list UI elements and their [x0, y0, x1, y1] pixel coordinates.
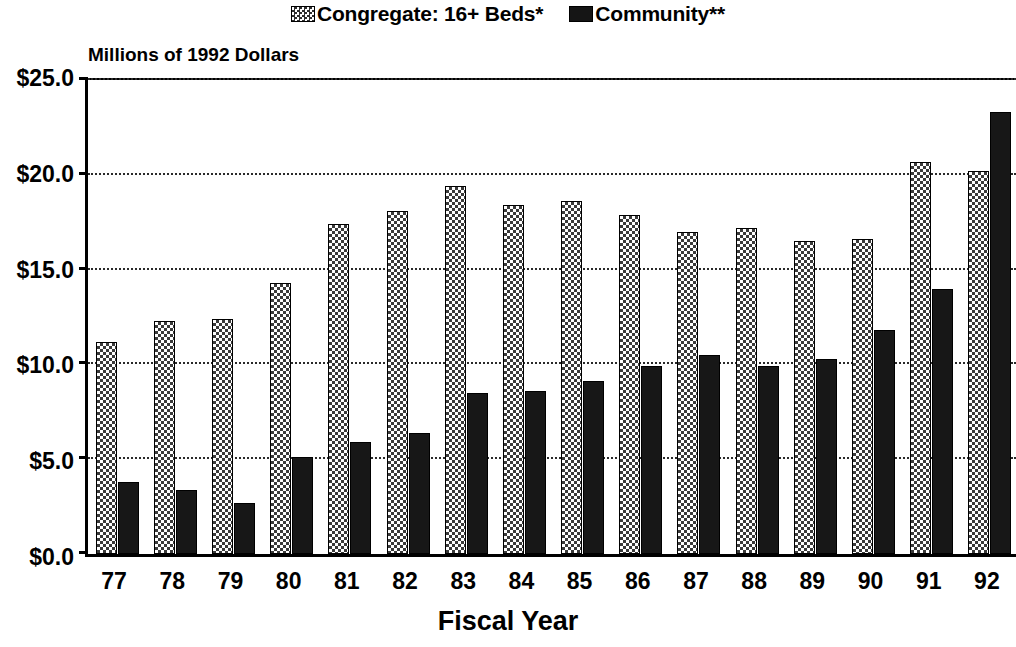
bar-group: [961, 80, 1016, 554]
bar-congregate: [96, 342, 117, 554]
bar-group: [786, 80, 844, 554]
bars-layer: [88, 80, 1016, 554]
bar-congregate: [387, 211, 408, 554]
bar-congregate: [852, 239, 873, 554]
x-axis-tick-label: 85: [567, 568, 593, 595]
y-axis-title: Millions of 1992 Dollars: [88, 44, 299, 66]
bar-community: [292, 457, 313, 554]
bar-community: [932, 289, 953, 554]
y-axis-tick-mark: [79, 361, 88, 364]
bar-community: [176, 490, 197, 554]
bar-community: [699, 355, 720, 554]
bar-group: [263, 80, 321, 554]
y-axis-tick-mark: [79, 267, 88, 270]
y-axis-tick-label: $25.0: [0, 65, 74, 92]
y-axis-tick-label: $5.0: [0, 448, 74, 475]
bar-congregate: [270, 283, 291, 554]
y-axis-tick-label: $10.0: [0, 352, 74, 379]
y-axis-tick-mark: [79, 551, 88, 554]
bar-group: [146, 80, 204, 554]
x-axis-tick-label: 86: [625, 568, 651, 595]
bar-group: [844, 80, 902, 554]
legend-item-congregate: Congregate: 16+ Beds*: [291, 3, 543, 24]
bar-community: [641, 366, 662, 554]
bar-group: [437, 80, 495, 554]
bar-congregate: [968, 171, 989, 554]
x-axis-tick-label: 80: [276, 568, 302, 595]
bar-group: [204, 80, 262, 554]
bar-congregate: [736, 228, 757, 554]
bar-congregate: [503, 205, 524, 554]
solid-swatch-icon: [569, 6, 593, 22]
legend-item-community: Community**: [569, 3, 725, 24]
x-axis-tick-label: 79: [218, 568, 244, 595]
bar-community: [525, 391, 546, 554]
y-axis-tick-mark: [79, 456, 88, 459]
x-axis-tick-label: 89: [800, 568, 826, 595]
y-axis-tick-label: $0.0: [0, 544, 74, 571]
bar-community: [990, 112, 1011, 554]
x-axis-tick-label: 82: [392, 568, 418, 595]
bar-group: [88, 80, 146, 554]
bar-congregate: [212, 319, 233, 554]
bar-congregate: [910, 162, 931, 554]
bar-community: [234, 503, 255, 554]
x-axis-tick-label: 84: [509, 568, 535, 595]
legend-label-congregate: Congregate: 16+ Beds*: [317, 3, 543, 24]
bar-congregate: [328, 224, 349, 554]
bar-congregate: [794, 241, 815, 554]
x-axis-tick-label: 92: [974, 568, 1000, 595]
bar-community: [816, 359, 837, 554]
x-axis-tick-label: 90: [858, 568, 884, 595]
bar-community: [583, 381, 604, 554]
plot-area: [85, 78, 1016, 557]
bar-group: [554, 80, 612, 554]
x-axis-tick-label: 87: [683, 568, 709, 595]
bar-group: [728, 80, 786, 554]
bar-community: [118, 482, 139, 554]
bar-group: [321, 80, 379, 554]
bar-community: [467, 393, 488, 554]
bar-congregate: [561, 201, 582, 554]
x-axis-tick-label: 77: [101, 568, 127, 595]
bar-group: [612, 80, 670, 554]
x-axis-tick-label: 81: [334, 568, 360, 595]
bar-chart: Congregate: 16+ Beds* Community** Millio…: [0, 0, 1016, 647]
checkered-swatch-icon: [291, 6, 315, 22]
bar-group: [379, 80, 437, 554]
x-axis-tick-label: 88: [741, 568, 767, 595]
x-axis-tick-label: 78: [159, 568, 185, 595]
bar-community: [874, 330, 895, 554]
y-axis-tick-label: $15.0: [0, 256, 74, 283]
bar-congregate: [154, 321, 175, 554]
bar-group: [670, 80, 728, 554]
x-axis-tick-label: 91: [916, 568, 942, 595]
bar-community: [409, 433, 430, 554]
bar-community: [350, 442, 371, 554]
x-axis-tick-label: 83: [450, 568, 476, 595]
legend-label-community: Community**: [595, 3, 725, 24]
x-axis-tick-labels: 77787980818283848586878889909192: [85, 560, 1016, 590]
bar-group: [495, 80, 553, 554]
chart-legend: Congregate: 16+ Beds* Community**: [0, 3, 1016, 24]
bar-community: [758, 366, 779, 554]
bar-congregate: [445, 186, 466, 554]
y-axis-tick-mark: [79, 77, 88, 80]
bar-congregate: [619, 215, 640, 554]
bar-congregate: [677, 232, 698, 554]
bar-group: [903, 80, 961, 554]
y-axis-tick-label: $20.0: [0, 160, 74, 187]
x-axis-title: Fiscal Year: [0, 606, 1016, 637]
y-axis-tick-mark: [79, 172, 88, 175]
